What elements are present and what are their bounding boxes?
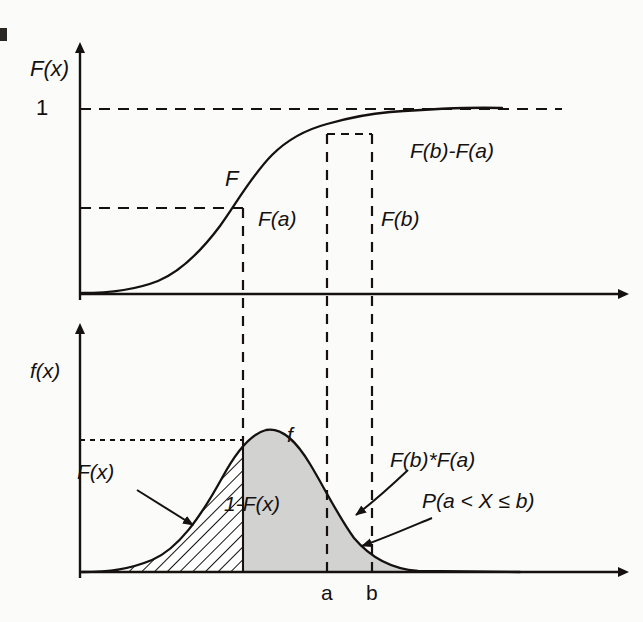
x-tick-label-b: b [366,582,378,603]
label-F-of-a: F(a) [258,208,297,229]
bottom-panel-pdf [80,333,619,578]
x-tick-label-a: a [321,582,333,603]
top-y-tick-one-label: 1 [36,97,48,119]
label-F-b-times-F-a: F(b)*F(a) [390,449,475,470]
diagram-vector-layer [0,0,643,622]
label-F-b-minus-F-a: F(b)-F(a) [410,140,494,161]
top-panel-cdf [80,52,619,400]
figure-canvas: F(x) 1 F F(a) F(b) F(b)-F(a) f(x) f F(x)… [0,0,643,622]
label-shaded-region-1-minus-Fx: 1-F(x) [224,493,280,514]
label-hatched-region-Fx: F(x) [77,461,114,482]
cdf-curve-label: F [225,168,238,190]
cdf-curve [82,108,502,293]
top-y-axis-label: F(x) [30,58,69,80]
pdf-curve-label: f [287,424,293,445]
leader-arrow-Fx [137,490,193,525]
bottom-y-axis-label: f(x) [30,360,60,381]
leader-arrow-product [356,470,408,515]
label-F-of-b: F(b) [381,208,420,229]
label-probability-a-to-b: P(a < X ≤ b) [422,490,535,511]
